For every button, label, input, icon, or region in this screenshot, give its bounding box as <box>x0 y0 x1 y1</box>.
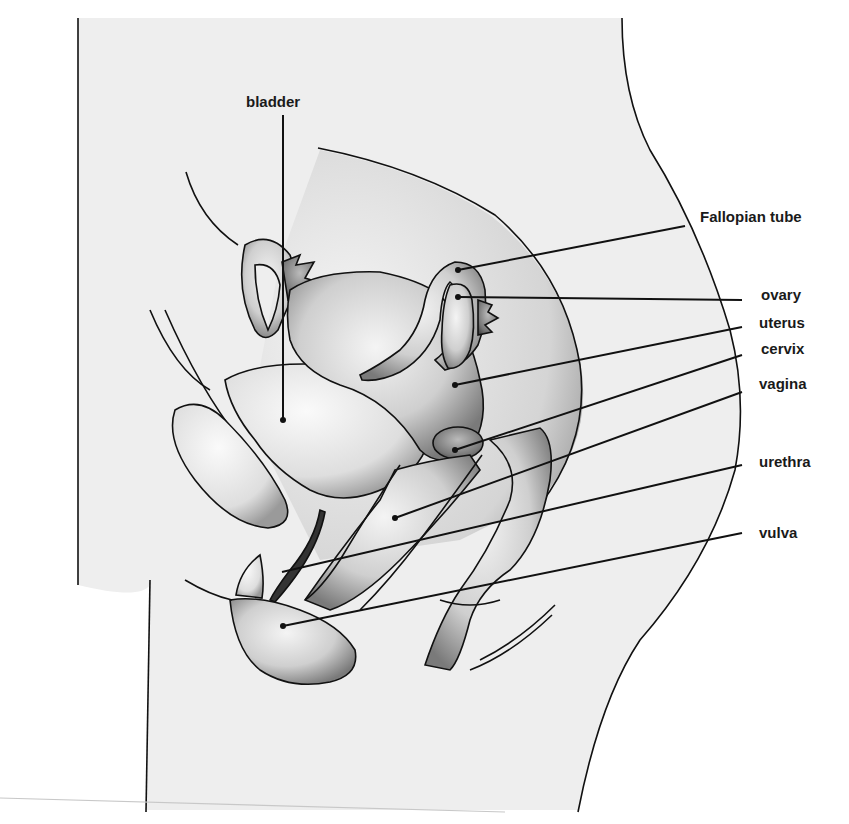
label-urethra: urethra <box>759 453 811 470</box>
label-fallopian-tube: Fallopian tube <box>700 208 802 225</box>
label-bladder: bladder <box>246 93 300 110</box>
label-vagina: vagina <box>759 375 807 392</box>
label-vulva: vulva <box>759 524 798 541</box>
label-cervix: cervix <box>761 340 805 357</box>
label-ovary: ovary <box>761 286 802 303</box>
anatomy-diagram: bladder Fallopian tube ovary uterus cerv… <box>0 0 849 824</box>
label-uterus: uterus <box>759 314 805 331</box>
